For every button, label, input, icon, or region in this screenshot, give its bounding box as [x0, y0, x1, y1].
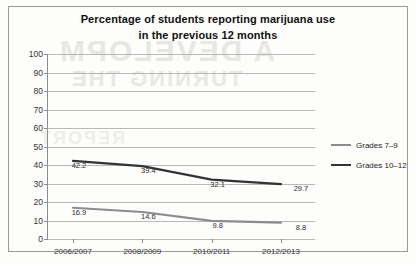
y-axis-tick-label: 50: [34, 142, 43, 152]
data-point-label: 29.7: [294, 184, 309, 193]
legend-item: Grades 10–12: [331, 155, 416, 175]
x-axis-tick-mark: [73, 239, 74, 243]
y-axis-tick-label: 20: [34, 197, 43, 207]
gridline: [47, 239, 315, 240]
chart-title-line-1: Percentage of students reporting marijua…: [9, 11, 407, 27]
data-point-label: 42.2: [72, 160, 87, 169]
data-point-label: 32.1: [210, 179, 225, 188]
legend-swatch: [331, 164, 351, 166]
x-axis-tick-label: 2008/2009: [123, 247, 161, 256]
legend-label: Grades 10–12: [356, 161, 407, 170]
chart-title: Percentage of students reporting marijua…: [9, 11, 407, 43]
y-axis-tick-label: 70: [34, 105, 43, 115]
chart-container: Percentage of students reporting marijua…: [8, 6, 408, 252]
legend-label: Grades 7–9: [356, 141, 398, 150]
x-axis-tick-mark: [281, 239, 282, 243]
y-axis-tick-label: 0: [38, 234, 43, 244]
y-axis-tick-label: 100: [29, 49, 43, 59]
legend-item: Grades 7–9: [331, 135, 416, 155]
y-axis-tick-label: 30: [34, 179, 43, 189]
series-line: [73, 208, 281, 223]
legend-swatch: [331, 144, 351, 146]
data-point-label: 39.4: [141, 166, 156, 175]
data-point-label: 8.8: [296, 222, 306, 231]
chart-title-line-2: in the previous 12 months: [9, 27, 407, 43]
data-point-label: 14.6: [141, 211, 156, 220]
x-axis-tick-label: 2010/2011: [193, 247, 230, 256]
scanned-page: A DEVELOPM TURNING THE REPORT Percentage…: [0, 0, 416, 264]
x-axis-tick-label: 2006/2007: [54, 247, 92, 256]
y-axis-tick-mark: [44, 239, 48, 240]
x-axis-tick-label: 2012/2013: [262, 247, 300, 256]
x-axis-tick-mark: [142, 239, 143, 243]
y-axis-tick-label: 60: [34, 123, 43, 133]
y-axis-tick-label: 80: [34, 86, 43, 96]
y-axis-tick-label: 90: [34, 68, 43, 78]
x-axis-tick-mark: [212, 239, 213, 243]
y-axis-tick-label: 40: [34, 160, 43, 170]
series-lines: [47, 54, 315, 239]
y-axis-tick-label: 10: [34, 216, 43, 226]
data-point-label: 9.8: [212, 220, 222, 229]
data-point-label: 16.9: [72, 207, 87, 216]
plot-area: 1009080706050403020100 2006/20072008/200…: [47, 54, 315, 239]
series-line: [73, 161, 281, 184]
chart-legend: Grades 7–9Grades 10–12: [331, 135, 416, 175]
